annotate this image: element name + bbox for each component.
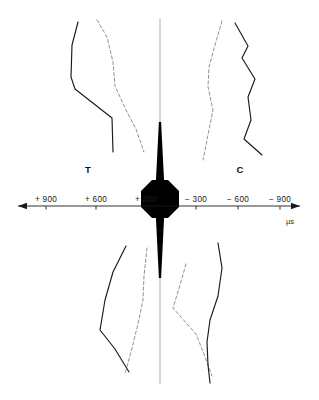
trace-lower-left-dashed [125, 248, 147, 374]
plot-area: + 900+ 600+ 300− 300− 600− 900 µs T C [0, 0, 319, 400]
region-label-temporal: T [85, 164, 91, 175]
top-spike-marker [155, 122, 165, 199]
trace-lower-right-dashed [173, 264, 212, 376]
bottom-spike-marker [155, 199, 165, 278]
trace-upper-left-solid [71, 22, 113, 152]
figure-canvas: + 900+ 600+ 300− 300− 600− 900 µs T C [0, 0, 319, 400]
axis-arrow-left-icon [18, 203, 27, 209]
trace-lower-right-solid [207, 243, 222, 383]
trace-upper-right-solid [235, 23, 262, 155]
trace-lower-left-solid [100, 246, 129, 372]
axis-arrow-right-icon [291, 203, 300, 209]
axis-tick-label: + 600 [85, 195, 107, 204]
axis-tick-label: − 900 [269, 195, 291, 204]
region-label-contralateral: C [237, 164, 244, 175]
axis-unit-label: µs [286, 217, 294, 226]
trace-upper-right-dashed [203, 21, 222, 160]
axis-tick-label: − 300 [185, 195, 207, 204]
axis-tick-label: + 900 [35, 195, 57, 204]
axis-tick-label: − 600 [227, 195, 249, 204]
trace-upper-left-dashed [97, 20, 144, 152]
axis-tick-label: + 300 [135, 195, 157, 204]
